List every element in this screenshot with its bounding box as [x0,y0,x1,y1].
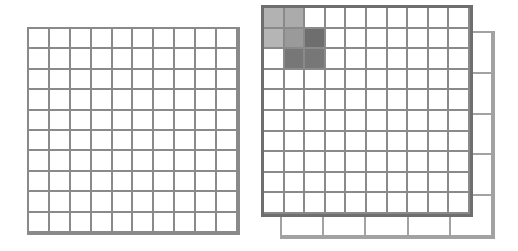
left-grid-cell [154,49,175,69]
front-grid-shaded-cell [285,49,306,70]
front-grid-cell [367,49,388,70]
front-grid-cell [408,90,429,111]
left-grid-cell [113,29,134,49]
front-grid-cell [326,173,347,194]
left-grid-cell [50,192,71,212]
front-grid-shaded-cell [305,49,326,70]
front-grid-cell [285,90,306,111]
front-grid-cell [367,152,388,173]
front-grid-cell [285,111,306,132]
left-grid-cell [29,192,50,212]
left-grid-cell [71,213,92,233]
front-grid-cell [285,70,306,91]
front-grid-cell [264,90,285,111]
front-grid-cell [388,132,409,153]
left-grid-cell [29,90,50,110]
front-grid-cell [326,49,347,70]
front-grid-cell [326,8,347,29]
left-grid-cell [196,29,217,49]
left-grid-cell [154,111,175,131]
left-grid-cell [196,213,217,233]
front-grid-cell [408,132,429,153]
front-grid-cell [346,193,367,214]
front-grid-cell [305,132,326,153]
front-grid-cell [264,193,285,214]
front-grid-cell [305,173,326,194]
left-grid-cell [92,90,113,110]
front-grid-cell [429,49,450,70]
left-grid-cell [175,90,196,110]
front-grid-cell [367,193,388,214]
left-grid-cell [113,70,134,90]
front-grid-cell [264,111,285,132]
left-grid-cell [133,29,154,49]
left-grid-cell [133,151,154,171]
left-grid-cell [196,70,217,90]
left-grid-cell [113,49,134,69]
left-grid-cell [71,90,92,110]
left-grid-cell [92,213,113,233]
left-grid-cell [71,111,92,131]
left-grid-cell [196,111,217,131]
left-grid-cell [154,172,175,192]
left-grid-cell [154,192,175,212]
front-grid-cell [367,8,388,29]
left-grid-cell [113,213,134,233]
front-grid-cell [326,90,347,111]
front-grid-cell [408,152,429,173]
left-grid-cell [175,131,196,151]
front-grid-cell [264,152,285,173]
front-grid-cell [346,173,367,194]
front-grid-cell [388,49,409,70]
left-grid-cell [196,131,217,151]
front-grid-cell [326,132,347,153]
left-grid-cell [92,49,113,69]
front-grid-cell [408,193,429,214]
front-grid-cell [449,29,470,50]
left-grid-cell [71,151,92,171]
left-grid-cell [29,213,50,233]
front-grid-cell [429,70,450,91]
left-grid-cell [154,131,175,151]
front-grid-shaded-cell [305,29,326,50]
left-grid-cell [92,172,113,192]
left-grid-cell [92,151,113,171]
front-grid-cell [449,173,470,194]
left-grid-cell [196,172,217,192]
left-grid-cell [29,70,50,90]
front-grid-cell [449,8,470,29]
front-grid-cell [346,29,367,50]
front-grid-cell [305,90,326,111]
left-grid-cell [113,172,134,192]
front-grid-cell [429,152,450,173]
front-grid-shaded-cell [264,8,285,29]
front-grid-cell [388,152,409,173]
left-grid-cell [50,151,71,171]
front-grid-cell [449,132,470,153]
left-grid-cell [217,151,238,171]
left-grid-cell [196,49,217,69]
front-grid-cell [367,173,388,194]
left-grid-cell [92,111,113,131]
left-grid-cell [217,49,238,69]
left-grid-cell [29,131,50,151]
left-grid-cell [217,111,238,131]
front-grid-cell [305,8,326,29]
front-grid-cell [285,173,306,194]
left-grid-cell [217,131,238,151]
left-grid-cell [154,213,175,233]
front-grid-cell [285,152,306,173]
left-grid-cell [154,90,175,110]
front-grid-cell [388,111,409,132]
front-grid-cell [326,193,347,214]
left-grid-cell [217,213,238,233]
left-pixel-grid [27,27,240,235]
front-grid-cell [326,111,347,132]
left-grid-cell [175,111,196,131]
front-grid-cell [429,29,450,50]
front-grid-cell [346,8,367,29]
left-grid-cell [217,70,238,90]
front-grid-cell [367,70,388,91]
front-grid-cell [264,70,285,91]
front-grid-cell [408,49,429,70]
